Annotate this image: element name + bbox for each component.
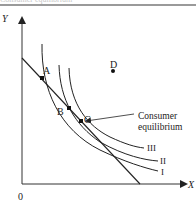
curve-III-label: III [147, 143, 156, 153]
curve-I-label: I [161, 167, 164, 177]
point-C-marker [79, 119, 83, 123]
point-A-marker [40, 76, 44, 80]
origin-label: 0 [18, 191, 23, 202]
annotation-line2: equilibrium [138, 122, 183, 132]
curve-II-label: II [160, 156, 166, 166]
x-axis-label: X [187, 179, 195, 190]
point-C-label: C [84, 114, 91, 125]
indifference-diagram: Y X 0 A B C D III II I Consumer equilibr… [0, 0, 196, 207]
point-D-label: D [110, 59, 117, 70]
point-A-label: A [43, 65, 51, 76]
annotation-line1: Consumer [138, 111, 178, 121]
point-B-marker [67, 106, 71, 110]
point-B-label: B [57, 106, 64, 117]
y-axis-label: Y [2, 13, 9, 24]
equilibrium-arrow [86, 114, 134, 121]
indifference-curve-III [69, 68, 144, 148]
